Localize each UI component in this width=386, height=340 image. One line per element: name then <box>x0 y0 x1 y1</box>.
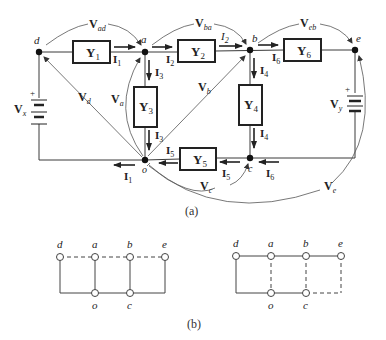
svg-text:I4: I4 <box>260 64 268 79</box>
admittance-y1: Y1 <box>73 41 110 63</box>
battery-vx: + Vx <box>14 88 47 124</box>
graph-part-b-left: d a b e o c <box>57 238 169 311</box>
svg-text:b: b <box>252 32 258 44</box>
svg-text:e: e <box>356 32 361 44</box>
svg-text:o: o <box>142 164 147 175</box>
admittance-y6: Y6 <box>284 39 321 61</box>
caption-a: (a) <box>185 204 198 218</box>
admittance-y5: Y5 <box>180 148 216 170</box>
svg-text:d: d <box>233 237 239 249</box>
battery-vy: + Vy <box>330 84 363 113</box>
svg-text:I6: I6 <box>266 167 274 182</box>
svg-text:c: c <box>127 299 132 311</box>
svg-text:Vx: Vx <box>14 102 27 118</box>
svg-text:I5: I5 <box>166 144 174 159</box>
svg-text:o: o <box>268 299 274 311</box>
svg-text:Vy: Vy <box>330 97 343 113</box>
svg-text:I4: I4 <box>260 127 268 142</box>
svg-text:I1: I1 <box>124 170 132 185</box>
svg-text:I1: I1 <box>113 53 121 68</box>
svg-text:Vad: Vad <box>89 17 107 33</box>
circuit-part-a: Y1 Y2 Y6 Y3 Y4 Y5 + Vx <box>14 16 365 218</box>
svg-text:b: b <box>303 237 309 249</box>
svg-text:I3: I3 <box>155 66 163 81</box>
svg-text:I5: I5 <box>222 167 230 182</box>
circuit-diagram: Y1 Y2 Y6 Y3 Y4 Y5 + Vx <box>0 0 386 340</box>
svg-text:Vc: Vc <box>200 179 213 195</box>
svg-text:e: e <box>162 238 167 250</box>
svg-text:a: a <box>268 237 274 249</box>
svg-text:c: c <box>303 299 308 311</box>
svg-text:Vd: Vd <box>78 90 92 106</box>
svg-text:d: d <box>57 238 63 250</box>
svg-text:Ve: Ve <box>324 179 337 195</box>
svg-text:o: o <box>92 299 98 311</box>
svg-text:b: b <box>127 238 133 250</box>
svg-text:Vb: Vb <box>198 80 211 96</box>
caption-b: (b) <box>187 317 201 331</box>
svg-text:I6: I6 <box>272 51 280 66</box>
svg-text:e: e <box>338 237 343 249</box>
node-voltage-arcs: Vd Va Vb Vc Ve <box>44 56 365 203</box>
admittance-y3: Y3 <box>134 87 157 127</box>
svg-text:I2: I2 <box>220 30 229 45</box>
admittance-y2: Y2 <box>178 40 215 62</box>
svg-text:+: + <box>345 84 350 94</box>
svg-text:Vba: Vba <box>195 16 212 32</box>
svg-text:d: d <box>34 34 40 46</box>
admittance-y4: Y4 <box>239 85 262 125</box>
svg-text:Va: Va <box>111 92 124 108</box>
svg-text:c: c <box>248 163 253 174</box>
svg-text:a: a <box>92 238 98 250</box>
svg-text:a: a <box>141 33 147 45</box>
graph-part-b-right: d a b e o c <box>233 237 345 311</box>
svg-text:I2: I2 <box>166 53 174 68</box>
svg-text:Veb: Veb <box>300 16 316 32</box>
svg-text:+: + <box>30 88 35 98</box>
